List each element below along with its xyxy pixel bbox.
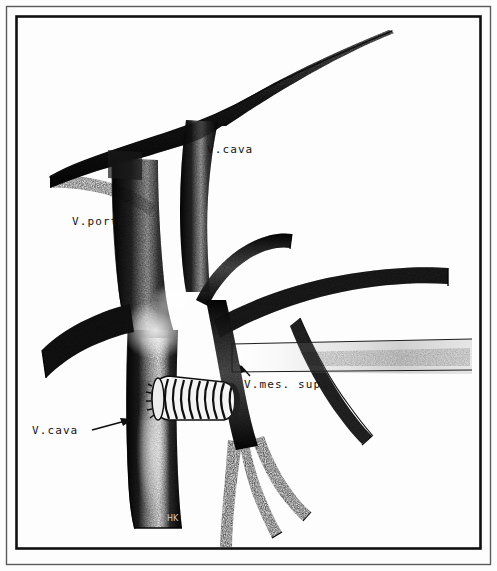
label-portal-vein: V.porta: [72, 216, 126, 227]
artist-signature: HK: [167, 514, 178, 523]
figure-root: V.cava V.porta V.mes. sup. V.cava HK: [0, 0, 497, 571]
label-vena-cava-inferior: V.cava: [32, 425, 78, 436]
label-superior-mesenteric-vein: V.mes. sup.: [244, 379, 329, 390]
anatomy-illustration: [0, 0, 497, 571]
label-vena-cava-superior: V.cava: [207, 144, 253, 155]
